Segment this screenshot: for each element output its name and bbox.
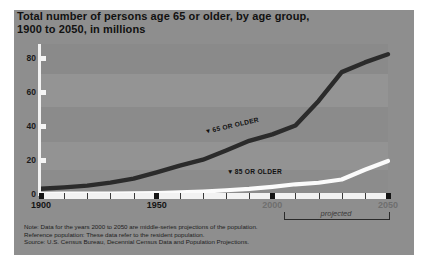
- footnote-source: Source: U.S. Census Bureau, Decennial Ce…: [24, 238, 414, 246]
- annotation-85-label: 85 OR OLDER: [235, 168, 282, 175]
- x-axis-tick: [180, 193, 181, 199]
- y-axis-tick-mark: [41, 90, 46, 95]
- x-axis-tick: [64, 193, 65, 199]
- footnote-reference-population: Reference population: These data refer t…: [24, 231, 414, 239]
- y-axis-tick-mark: [41, 124, 46, 129]
- annotation-85-or-older: ▼85 OR OLDER: [227, 168, 282, 175]
- chart-figure: Total number of persons age 65 or older,…: [0, 0, 428, 263]
- x-axis-tick: [295, 193, 296, 199]
- background-band: [39, 44, 388, 74]
- x-axis-tick: [249, 193, 250, 199]
- x-axis-label: 2050: [378, 200, 398, 210]
- y-axis-line: [38, 44, 41, 196]
- x-axis-major-tick: [39, 193, 44, 199]
- x-axis-major-tick: [386, 193, 391, 199]
- background-band: [39, 107, 388, 142]
- x-axis-label: 1900: [31, 200, 51, 210]
- x-axis-major-tick: [154, 193, 159, 199]
- triangle-marker-icon: ▼: [227, 168, 234, 175]
- y-axis-tick-mark: [41, 56, 46, 61]
- y-axis-tick-label: 80: [14, 53, 36, 63]
- chart-title-line1: Total number of persons age 65 or older,…: [17, 10, 309, 22]
- background-band: [39, 170, 388, 194]
- x-axis-tick: [319, 193, 320, 199]
- y-axis-tick-label: 20: [14, 155, 36, 165]
- chart-footnotes: Note: Data for the years 2000 to 2050 ar…: [24, 223, 414, 246]
- x-axis-tick: [134, 193, 135, 199]
- x-axis-tick: [87, 193, 88, 199]
- background-band: [39, 142, 388, 170]
- x-axis-tick: [226, 193, 227, 199]
- x-axis-tick: [365, 193, 366, 199]
- x-axis-tick: [203, 193, 204, 199]
- x-axis-tick: [110, 193, 111, 199]
- projected-label: projected: [319, 209, 354, 218]
- y-axis-tick-label: 0: [14, 189, 36, 199]
- background-band: [39, 74, 388, 107]
- x-axis-label: 2000: [262, 200, 282, 210]
- chart-title: Total number of persons age 65 or older,…: [17, 10, 377, 36]
- chart-title-line2: 1900 to 2050, in millions: [17, 23, 377, 36]
- x-axis-line: [39, 193, 389, 199]
- footnote-note: Note: Data for the years 2000 to 2050 ar…: [24, 223, 414, 231]
- y-axis-tick-mark: [41, 158, 46, 163]
- plot-area: [39, 44, 388, 194]
- x-axis-major-tick: [270, 193, 275, 199]
- x-axis-label: 1950: [147, 200, 167, 210]
- y-axis-tick-label: 40: [14, 121, 36, 131]
- x-axis-tick: [342, 193, 343, 199]
- y-axis-tick-label: 60: [14, 87, 36, 97]
